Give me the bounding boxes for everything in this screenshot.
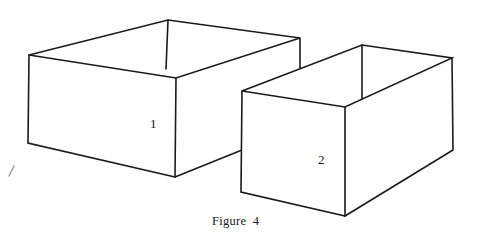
box-2-occluding-fill	[241, 45, 453, 216]
box-2	[241, 45, 453, 216]
stray-pen-mark	[9, 166, 14, 176]
box-1-label: 1	[150, 117, 157, 130]
box-1-top-rim	[29, 20, 300, 78]
box-2-label: 2	[318, 153, 325, 166]
box-1-back-inner-edge	[166, 20, 168, 69]
figure-4-drawing	[0, 0, 477, 245]
box-1-right-bottom-edge	[175, 150, 242, 177]
figure-caption: Figure 4	[212, 214, 259, 229]
